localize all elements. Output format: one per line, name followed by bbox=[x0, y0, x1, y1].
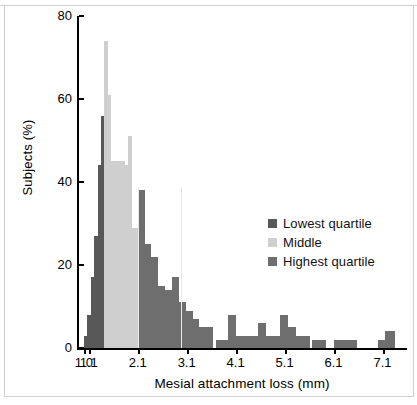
histogram-bar bbox=[249, 336, 257, 348]
y-axis-tick-label: 20 bbox=[38, 258, 72, 271]
legend-item: Highest quartile bbox=[268, 252, 375, 271]
y-axis-tick-label: 40 bbox=[38, 175, 72, 188]
plot-area bbox=[79, 16, 407, 348]
legend-item: Lowest quartile bbox=[268, 214, 375, 233]
x-axis-tick-label: 6.1 bbox=[314, 356, 354, 370]
histogram-bar bbox=[334, 340, 344, 348]
x-axis-tick bbox=[383, 350, 385, 354]
x-axis-tick bbox=[89, 350, 91, 354]
legend-item: Middle bbox=[268, 233, 375, 252]
histogram-bar bbox=[158, 286, 165, 348]
y-axis-title: Subjects (%) bbox=[20, 103, 35, 213]
histogram-bar bbox=[343, 340, 357, 348]
histogram-bar bbox=[193, 319, 200, 348]
histogram-bar bbox=[296, 336, 310, 348]
legend-label: Highest quartile bbox=[283, 254, 375, 269]
x-axis-tick bbox=[187, 350, 189, 354]
y-axis-tick-label: 80 bbox=[38, 9, 72, 22]
x-axis-tick bbox=[138, 350, 140, 354]
histogram-bar bbox=[165, 290, 172, 348]
y-axis-tick-label: 0 bbox=[38, 341, 72, 354]
scan-border-bottom bbox=[4, 396, 414, 397]
legend-swatch-icon bbox=[268, 257, 277, 266]
histogram-bar bbox=[151, 257, 158, 348]
histogram-bar bbox=[258, 323, 266, 348]
x-axis-title: Mesial attachment loss (mm) bbox=[77, 376, 407, 391]
histogram-bar bbox=[228, 315, 235, 348]
histogram-bar bbox=[378, 340, 385, 348]
histogram-bar bbox=[266, 336, 280, 348]
histogram-bar bbox=[385, 331, 395, 348]
x-axis-tick bbox=[236, 350, 238, 354]
scan-border-top bbox=[0, 5, 417, 6]
scan-border-left bbox=[4, 5, 5, 397]
histogram-bar bbox=[145, 244, 152, 348]
histogram-bar bbox=[236, 336, 250, 348]
chart-legend: Lowest quartileMiddleHighest quartile bbox=[268, 214, 375, 271]
x-axis-line bbox=[77, 348, 407, 350]
histogram-bar bbox=[186, 311, 193, 348]
scan-border-right bbox=[413, 5, 414, 397]
x-axis-tick bbox=[84, 350, 86, 354]
legend-label: Middle bbox=[283, 235, 322, 250]
x-axis-tick-label: 4.1 bbox=[216, 356, 256, 370]
x-axis-tick bbox=[285, 350, 287, 354]
y-axis-tick-label: 60 bbox=[38, 92, 72, 105]
legend-swatch-icon bbox=[268, 219, 277, 228]
histogram-bar bbox=[199, 327, 213, 348]
histogram-bar bbox=[216, 340, 228, 348]
histogram-bar bbox=[172, 277, 179, 348]
legend-label: Lowest quartile bbox=[283, 216, 372, 231]
x-axis-tick-label: 3.1 bbox=[167, 356, 207, 370]
x-axis-tick-label: 1.1 bbox=[69, 356, 109, 370]
chart-figure: 020406080 Subjects (%) 1.01.12.13.14.15.… bbox=[0, 0, 417, 405]
histogram-bar bbox=[288, 327, 296, 348]
bar-separator-line bbox=[138, 188, 139, 348]
x-axis-tick-label: 5.1 bbox=[265, 356, 305, 370]
legend-swatch-icon bbox=[268, 238, 277, 247]
histogram-bar bbox=[280, 315, 288, 348]
histogram-bar bbox=[138, 190, 145, 348]
histogram-bar bbox=[312, 340, 326, 348]
x-axis-tick bbox=[334, 350, 336, 354]
x-axis-tick-label: 7.1 bbox=[363, 356, 403, 370]
x-axis-tick-label: 2.1 bbox=[118, 356, 158, 370]
bar-separator-line bbox=[181, 188, 182, 348]
